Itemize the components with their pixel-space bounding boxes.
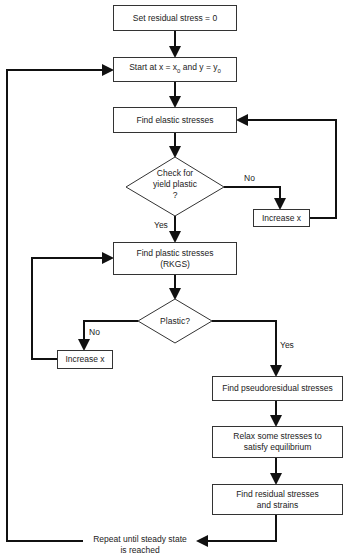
- node-label: Increase x: [262, 213, 301, 224]
- node-label: Relax some stresses to: [233, 431, 321, 442]
- node-label: Increase x: [65, 354, 104, 365]
- node-label: Start at x = x0 and y = y0: [129, 62, 221, 77]
- edge-label-plastic-yes: Yes: [280, 340, 294, 350]
- decision-yield-label: Check for yield plastic ?: [135, 168, 215, 201]
- edge-label-yield-no: No: [244, 173, 255, 183]
- node-label: (RKGS): [160, 259, 190, 270]
- edge-label-yield-yes: Yes: [154, 220, 168, 230]
- node-label: and strains: [257, 500, 299, 511]
- decision-plastic-label: Plastic?: [145, 316, 205, 327]
- node-label: Find plastic stresses: [137, 248, 214, 259]
- node-label: Set residual stress = 0: [133, 13, 217, 24]
- repeat-label: Repeat until steady state is reached: [85, 534, 195, 554]
- node-find-plastic: Find plastic stresses (RKGS): [113, 242, 237, 275]
- node-label: satisfy equilibrium: [244, 442, 312, 453]
- node-start: Start at x = x0 and y = y0: [113, 57, 237, 82]
- edge-label-plastic-no: No: [89, 327, 100, 337]
- node-label: Find elastic stresses: [137, 115, 214, 126]
- node-increase-x-1: Increase x: [253, 209, 310, 227]
- node-label: Find pseudoresidual stresses: [222, 383, 333, 394]
- node-find-residual: Find residual stresses and strains: [212, 484, 343, 515]
- node-label: Find residual stresses: [236, 489, 319, 500]
- node-find-elastic: Find elastic stresses: [113, 107, 237, 133]
- node-relax-stresses: Relax some stresses to satisfy equilibri…: [212, 426, 343, 458]
- node-increase-x-2: Increase x: [57, 350, 113, 369]
- node-find-pseudoresidual: Find pseudoresidual stresses: [212, 376, 343, 401]
- node-set-residual: Set residual stress = 0: [113, 5, 237, 31]
- connector-lines: [0, 0, 349, 554]
